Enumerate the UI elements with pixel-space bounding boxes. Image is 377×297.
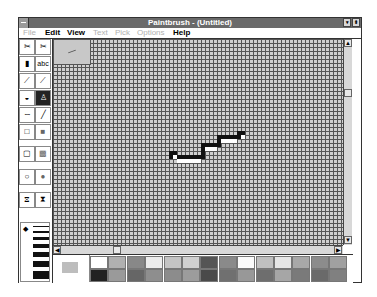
line-size-indicator-icon: ◆ <box>23 225 28 233</box>
toolbox: ✂ ✂ ▮ abc ⟋ ⟋ ◒ ♙ ∽ ╱ □ ■ ▢ ▩ ○ ● ⧖ ⧗ ◆ <box>19 39 53 283</box>
palette-swatch[interactable] <box>274 256 292 269</box>
vertical-scrollbar[interactable]: ▲ ▼ <box>343 39 352 245</box>
zoom-preview <box>53 39 91 65</box>
menu-options[interactable]: Options <box>137 28 165 38</box>
palette-swatch[interactable] <box>90 269 108 282</box>
pixel-white <box>205 147 217 151</box>
brush-icon[interactable]: ♙ <box>35 90 51 106</box>
palette-swatch[interactable] <box>182 269 200 282</box>
palette-swatch[interactable] <box>329 269 347 282</box>
scroll-left-button[interactable]: ◀ <box>53 246 61 254</box>
paint-roller-icon[interactable]: ◒ <box>19 90 35 106</box>
palette-swatch[interactable] <box>219 269 237 282</box>
horizontal-scroll-thumb[interactable] <box>113 246 121 254</box>
circle-icon[interactable]: ○ <box>19 169 35 185</box>
scroll-right-button[interactable]: ▶ <box>334 246 342 254</box>
pixel-white <box>241 135 245 139</box>
menu-file[interactable]: File <box>23 28 36 38</box>
filled-rounded-box-icon[interactable]: ▩ <box>35 146 51 162</box>
palette-swatch[interactable] <box>145 269 163 282</box>
curve-icon[interactable]: ∽ <box>19 107 35 123</box>
line-size-7[interactable] <box>33 271 49 279</box>
scroll-down-button[interactable]: ▼ <box>344 236 352 244</box>
filled-box-icon[interactable]: ■ <box>35 124 51 140</box>
line-size-box[interactable]: ◆ <box>20 222 50 282</box>
palette-swatch[interactable] <box>256 256 274 269</box>
palette-swatch[interactable] <box>292 269 310 282</box>
window-title: Paintbrush - (Untitled) <box>148 18 232 27</box>
rounded-box-icon[interactable]: ▢ <box>19 146 35 162</box>
palette-swatch[interactable] <box>311 256 329 269</box>
palette-swatch[interactable] <box>237 269 255 282</box>
palette-swatch[interactable] <box>182 256 200 269</box>
paintbrush-window: Paintbrush - (Untitled) ▾ ⬍ File Edit Vi… <box>18 17 362 283</box>
menu-bar: File Edit View Text Pick Options Help <box>19 28 361 39</box>
palette-swatch[interactable] <box>127 269 145 282</box>
scroll-up-button[interactable]: ▲ <box>344 39 352 47</box>
system-menu-button[interactable] <box>19 18 29 28</box>
palette-swatch[interactable] <box>274 269 292 282</box>
eraser-icon[interactable]: ⟋ <box>35 73 51 89</box>
palette-swatch[interactable] <box>108 256 126 269</box>
palette-swatch[interactable] <box>292 256 310 269</box>
menu-text[interactable]: Text <box>93 28 108 38</box>
airbrush-icon[interactable]: ▮ <box>19 56 35 72</box>
line-size-4[interactable] <box>33 244 49 248</box>
palette-swatch[interactable] <box>329 256 347 269</box>
pick-scissors-icon[interactable]: ✂ <box>35 39 51 55</box>
title-bar[interactable]: Paintbrush - (Untitled) ▾ ⬍ <box>19 18 361 28</box>
menu-help[interactable]: Help <box>173 28 190 38</box>
minimize-button[interactable]: ▾ <box>343 18 351 27</box>
filled-circle-icon[interactable]: ● <box>35 169 51 185</box>
pixel-white <box>221 139 237 143</box>
line-size-3[interactable] <box>33 237 49 240</box>
preview-stroke <box>68 50 76 54</box>
polygon-icon[interactable]: ⧖ <box>19 192 35 208</box>
scissors-icon[interactable]: ✂ <box>19 39 35 55</box>
palette-swatch[interactable] <box>127 256 145 269</box>
palette-swatch[interactable] <box>311 269 329 282</box>
selected-color-indicator <box>62 262 78 273</box>
current-colors <box>53 255 90 282</box>
line-size-6[interactable] <box>33 261 49 267</box>
menu-edit[interactable]: Edit <box>45 28 60 38</box>
line-size-1[interactable] <box>33 226 49 227</box>
color-eraser-icon[interactable]: ⟋ <box>19 73 35 89</box>
menu-pick[interactable]: Pick <box>115 28 130 38</box>
palette-swatch[interactable] <box>219 256 237 269</box>
maximize-button[interactable]: ⬍ <box>352 18 360 27</box>
filled-polygon-icon[interactable]: ⧗ <box>35 192 51 208</box>
box-icon[interactable]: □ <box>19 124 35 140</box>
palette-swatch[interactable] <box>164 256 182 269</box>
palette-swatch[interactable] <box>108 269 126 282</box>
menu-view[interactable]: View <box>67 28 85 38</box>
palette-swatch[interactable] <box>145 256 163 269</box>
palette-swatch[interactable] <box>237 256 255 269</box>
pixel-white <box>177 159 201 163</box>
zoomed-canvas[interactable] <box>53 39 343 245</box>
line-size-5[interactable] <box>33 252 49 257</box>
horizontal-scrollbar[interactable]: ◀ ▶ <box>53 245 343 254</box>
text-tool-icon[interactable]: abc <box>35 56 51 72</box>
palette-swatch[interactable] <box>256 269 274 282</box>
line-icon[interactable]: ╱ <box>35 107 51 123</box>
color-palette <box>53 254 353 283</box>
vertical-scroll-thumb[interactable] <box>344 89 352 97</box>
palette-swatch[interactable] <box>164 269 182 282</box>
palette-swatch[interactable] <box>200 256 218 269</box>
palette-swatch[interactable] <box>200 269 218 282</box>
palette-swatch[interactable] <box>90 256 108 269</box>
line-size-2[interactable] <box>33 231 49 233</box>
